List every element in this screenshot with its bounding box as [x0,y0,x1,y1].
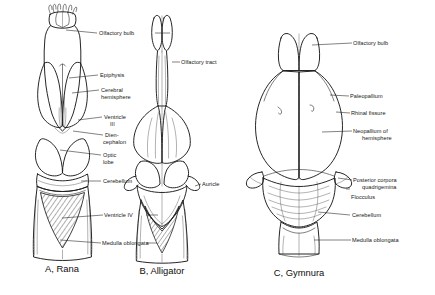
label-neopallium-line1: Neopallium of [353,128,388,134]
label-medulla-oblongata-c: Medulla oblongata [352,237,399,243]
label-rhinal-fissure: Rhinal fissure [351,110,386,116]
label-epiphysis: Epiphysis [100,72,125,78]
label-ventricle-iii-line2: III [110,121,115,127]
label-optic-lobe-line2: lobe [103,159,114,165]
label-neopallium-line2: hemisphere [362,135,392,141]
label-auricle: Auricle [202,181,219,187]
label-olfactory-tract: Olfactory tract [181,59,217,65]
label-flocculus: Flocculus [351,194,375,200]
label-posterior-corpora-line2: quadrigemina [362,184,397,190]
comparative-brain-anatomy-figure: A, Rana [0,0,435,295]
label-ventricle-iii-line1: Ventricle [104,114,126,120]
label-optic-lobe-line1: Optic [103,152,116,158]
label-cerebral-hemisphere-line1: Cerebral [101,87,123,93]
caption-b: B, Alligator [140,265,185,276]
label-diencephalon-line1: Dien- [105,132,119,138]
label-cerebral-hemisphere-line2: hemisphere [101,94,131,100]
label-paleopallium: Paleopallium [350,93,383,99]
label-cerebellum-c: Cerebellum [352,212,381,218]
caption-c: C, Gymnura [274,267,325,278]
label-cerebellum-a: Cerebellum [103,178,132,184]
caption-a: A, Rana [45,263,80,274]
label-olfactory-bulb-c: Olfactory bulb [353,40,388,46]
label-posterior-corpora-line1: Posterior corpora [353,177,398,183]
label-diencephalon-line2: cephalon [103,139,126,145]
label-medulla-oblongata-a: Medulla oblongata [102,240,149,246]
label-ventricle-iv: Ventricle IV [104,212,133,218]
label-olfactory-bulb-a: Olfactory bulb [99,30,134,36]
